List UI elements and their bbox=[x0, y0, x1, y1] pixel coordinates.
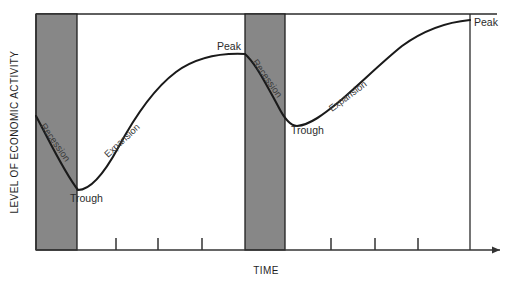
turning-point-label-peak-2: Peak bbox=[474, 16, 499, 28]
x-axis-arrowhead bbox=[492, 247, 500, 254]
diagram-canvas: LEVEL OF ECONOMIC ACTIVITY TIME Recessio… bbox=[0, 0, 513, 289]
phase-label-expansion-1: Expansion bbox=[102, 121, 142, 159]
y-axis-label: LEVEL OF ECONOMIC ACTIVITY bbox=[9, 51, 20, 214]
turning-point-label-peak-1: Peak bbox=[217, 40, 242, 52]
x-axis-label: TIME bbox=[253, 265, 279, 276]
turning-point-label-trough-2: Trough bbox=[291, 124, 324, 136]
phase-label-expansion-2: Expansion bbox=[327, 78, 369, 113]
turning-point-label-trough-1: Trough bbox=[70, 192, 103, 204]
business-cycle-figure: LEVEL OF ECONOMIC ACTIVITY TIME Recessio… bbox=[0, 0, 513, 289]
recession-band-2 bbox=[245, 14, 285, 250]
